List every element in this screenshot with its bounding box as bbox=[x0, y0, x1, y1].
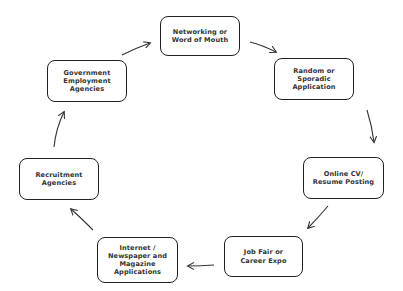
node-online-cv: Online CV/ Resume Posting bbox=[303, 157, 384, 199]
node-label-internet-newspaper: Internet / Newspaper and Magazine Applic… bbox=[108, 244, 167, 277]
node-label-job-fair: Job Fair or Career Expo bbox=[240, 248, 286, 264]
job-search-cycle-diagram: Networking or Word of Mouth Random or Sp… bbox=[0, 0, 403, 291]
node-label-networking: Networking or Word of Mouth bbox=[172, 28, 228, 44]
node-label-recruitment-agencies: Recruitment Agencies bbox=[35, 171, 82, 187]
arrow-online-to-jobfair bbox=[308, 206, 328, 228]
node-job-fair: Job Fair or Career Expo bbox=[224, 236, 303, 277]
node-networking: Networking or Word of Mouth bbox=[160, 16, 240, 56]
node-random-application: Random or Sporadic Application bbox=[274, 58, 354, 100]
arrow-government-to-networking bbox=[122, 43, 150, 55]
arrow-networking-to-random bbox=[250, 42, 276, 52]
node-government-agencies: Government Employment Agencies bbox=[47, 60, 127, 102]
arrow-jobfair-to-internet bbox=[188, 265, 214, 266]
arrow-internet-to-recruitment bbox=[71, 209, 93, 230]
node-internet-newspaper: Internet / Newspaper and Magazine Applic… bbox=[97, 237, 178, 283]
arrow-recruitment-to-government bbox=[54, 112, 64, 147]
arrow-random-to-online bbox=[367, 110, 374, 142]
node-label-random-application: Random or Sporadic Application bbox=[292, 67, 335, 92]
node-recruitment-agencies: Recruitment Agencies bbox=[19, 158, 99, 200]
node-label-online-cv: Online CV/ Resume Posting bbox=[313, 170, 374, 186]
node-label-government-agencies: Government Employment Agencies bbox=[63, 69, 110, 94]
